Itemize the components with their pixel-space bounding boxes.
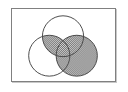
figure-frame xyxy=(11,8,116,82)
venn-diagram-svg xyxy=(12,9,115,81)
screenshot-root xyxy=(0,0,128,92)
